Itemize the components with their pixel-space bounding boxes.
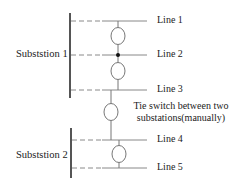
tie-switch-label: Tie switch between two substations(manua… <box>126 100 236 124</box>
substation-2-switch-column <box>112 140 126 168</box>
tie-switch-icon <box>104 104 118 121</box>
switch-icon <box>112 146 126 163</box>
diagram-canvas: Subststion 1 Subststion 2 Line 1 Line 2 … <box>0 0 238 186</box>
line-5-label: Line 5 <box>157 161 183 172</box>
substation-1-label: Subststion 1 <box>16 48 68 59</box>
tie-switch-label-line-2: substations(manually) <box>126 112 236 124</box>
junction-node-icon <box>116 53 120 57</box>
switch-icon <box>111 28 125 45</box>
line-1-label: Line 1 <box>157 14 183 25</box>
line-2-label: Line 2 <box>157 48 183 59</box>
tie-switch <box>104 90 118 140</box>
tie-switch-label-line-1: Tie switch between two <box>126 100 236 112</box>
substation-2-label: Subststion 2 <box>16 149 68 160</box>
switch-icon <box>111 63 125 80</box>
line-4-label: Line 4 <box>157 133 183 144</box>
line-3-label: Line 3 <box>157 83 183 94</box>
